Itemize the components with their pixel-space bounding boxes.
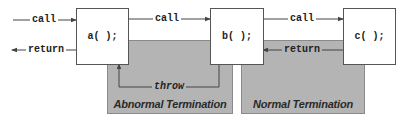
function-b-box: b( ); [210,8,264,65]
entry-call-label: call [30,15,58,25]
throw-label: throw [152,82,186,92]
function-c-box: c( ); [343,8,396,65]
c-to-b-return-label: return [282,45,322,55]
a-to-b-call-label: call [153,14,181,24]
call-stack-diagram: Abnormal Termination Normal Termination … [0,0,407,120]
b-to-c-call-label: call [288,14,316,24]
abnormal-termination-label: Abnormal Termination [108,98,232,110]
normal-termination-label: Normal Termination [242,98,364,110]
function-c-label: c( ); [354,31,384,42]
exit-return-label: return [26,45,66,55]
function-a-label: a( ); [87,31,117,42]
function-a-box: a( ); [76,8,129,65]
function-b-label: b( ); [222,31,252,42]
